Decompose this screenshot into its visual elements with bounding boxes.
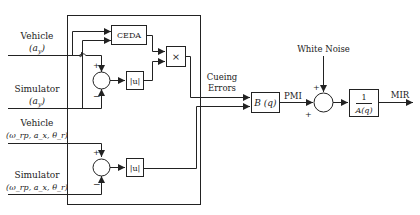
b-filter-label: B (q) xyxy=(253,98,277,108)
input-vehicle-rot: Vehicle (ω_rp, a_x, θ_r) xyxy=(6,118,68,140)
simulator-label-2: Simulator xyxy=(15,170,61,180)
summing-junction-3 xyxy=(314,93,333,112)
sum3-plus-top: + xyxy=(313,83,320,92)
sum1-plus: + xyxy=(93,61,100,70)
multiply-label: × xyxy=(172,51,180,62)
a-filter-numerator: 1 xyxy=(361,93,366,102)
vehicle-label-2: Vehicle xyxy=(20,118,54,128)
cueing-errors-label-1: Cueing xyxy=(207,72,238,82)
simulator-signal-2: (ω_rp, a_x, θ_r) xyxy=(6,183,68,192)
abs-block-2-label: |u| xyxy=(130,164,141,173)
pmi-label: PMI xyxy=(284,91,302,101)
ceda-label: CEDA xyxy=(117,31,141,40)
abs-block-1-label: |u| xyxy=(130,77,141,86)
sum2-plus: + xyxy=(93,148,100,157)
summing-junction-2 xyxy=(93,159,110,176)
cueing-errors-label-2: Errors xyxy=(208,83,236,93)
sum1-minus: − xyxy=(93,91,101,101)
vehicle-signal-2: (ω_rp, a_x, θ_r) xyxy=(6,131,68,140)
input-vehicle-ay: Vehicle (ay) xyxy=(20,31,54,55)
simulator-signal-1: (ay) xyxy=(29,96,45,108)
white-noise-label: White Noise xyxy=(297,44,350,54)
mir-label: MIR xyxy=(391,90,410,100)
input-simulator-ay: Simulator (ay) xyxy=(15,84,61,108)
simulator-label-1: Simulator xyxy=(15,84,61,94)
block-diagram: Vehicle (ay) Simulator (ay) Vehicle (ω_r… xyxy=(0,0,420,215)
input-simulator-rot: Simulator (ω_rp, a_x, θ_r) xyxy=(6,170,68,192)
sum3-plus-left: + xyxy=(305,110,312,119)
vehicle-rot-line xyxy=(8,144,102,158)
vehicle-label-1: Vehicle xyxy=(20,31,54,41)
sum2-minus: − xyxy=(93,179,101,189)
a-filter-denominator: A(q) xyxy=(354,106,372,115)
vehicle-signal-1: (ay) xyxy=(29,43,45,55)
summing-junction-1 xyxy=(93,72,110,89)
